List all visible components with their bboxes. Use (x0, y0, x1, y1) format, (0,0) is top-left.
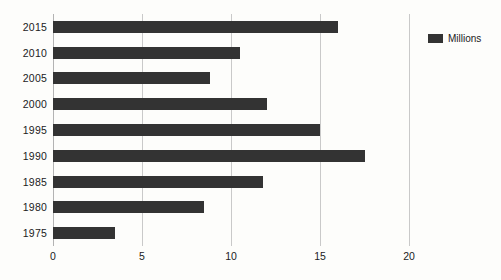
y-axis-tick-label-2005: 2005 (0, 66, 47, 92)
y-axis-tick-label-1975: 1975 (0, 220, 47, 246)
gridline-20 (409, 14, 410, 246)
bar-2010[interactable] (53, 47, 240, 59)
x-axis-tick-label-20: 20 (403, 250, 415, 262)
x-axis-tick-label-15: 15 (314, 250, 326, 262)
chart-legend: Millions (428, 33, 481, 44)
y-axis-tick-label-1985: 1985 (0, 169, 47, 195)
y-axis-tick-label-1990: 1990 (0, 143, 47, 169)
y-axis-labels: 201520102005200019951990198519801975 (0, 14, 47, 246)
bar-row (53, 40, 409, 66)
legend-label: Millions (448, 33, 481, 44)
bar-row (53, 66, 409, 92)
y-axis-tick-label-2000: 2000 (0, 91, 47, 117)
y-axis-tick-label-1980: 1980 (0, 194, 47, 220)
legend-swatch-icon (428, 34, 443, 43)
bar-1990[interactable] (53, 150, 365, 162)
bar-2005[interactable] (53, 72, 210, 84)
y-axis-tick-label-2015: 2015 (0, 14, 47, 40)
x-axis-labels: 05101520 (53, 250, 409, 266)
bar-1975[interactable] (53, 227, 115, 239)
bar-1985[interactable] (53, 176, 263, 188)
bar-row (53, 220, 409, 246)
x-axis-tick-label-0: 0 (50, 250, 56, 262)
y-axis-tick-label-2010: 2010 (0, 40, 47, 66)
x-axis-tick-label-5: 5 (139, 250, 145, 262)
bar-row (53, 91, 409, 117)
bars-container (53, 14, 409, 246)
bar-2015[interactable] (53, 21, 338, 33)
bar-row (53, 143, 409, 169)
bar-chart: 201520102005200019951990198519801975 051… (0, 0, 501, 280)
bar-row (53, 169, 409, 195)
bar-1995[interactable] (53, 124, 320, 136)
bar-row (53, 14, 409, 40)
y-axis-tick-label-1995: 1995 (0, 117, 47, 143)
bar-1980[interactable] (53, 201, 204, 213)
bar-row (53, 117, 409, 143)
x-axis-tick-label-10: 10 (225, 250, 237, 262)
bar-row (53, 194, 409, 220)
bar-2000[interactable] (53, 98, 267, 110)
